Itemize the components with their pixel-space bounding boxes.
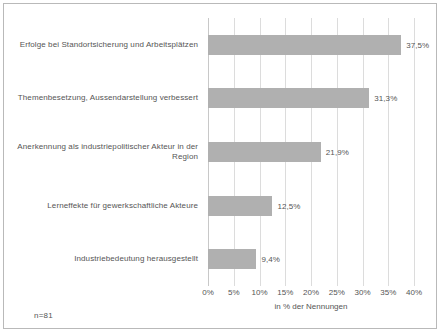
chart-frame: 37,5%31,3%21,9%12,5%9,4% 0%5%10%15%20%25…	[3, 3, 437, 329]
x-tick-label: 10%	[251, 288, 267, 297]
gridline-40	[414, 18, 415, 286]
bar-row: 37,5%	[208, 35, 414, 55]
bar-row: 12,5%	[208, 196, 414, 216]
category-label: Industriebedeutung herausgestellt	[8, 254, 198, 264]
x-axis-title: in % der Nennungen	[208, 302, 414, 311]
x-tick-label: 15%	[277, 288, 293, 297]
x-axis: 0%5%10%15%20%25%30%35%40%	[208, 286, 414, 300]
bar-row: 21,9%	[208, 142, 414, 162]
bar-value-label: 37,5%	[406, 40, 429, 49]
bar-row: 31,3%	[208, 88, 414, 108]
x-tick-label: 35%	[380, 288, 396, 297]
x-tick-label: 25%	[329, 288, 345, 297]
x-tick-label: 20%	[303, 288, 319, 297]
bar-value-label: 12,5%	[277, 201, 300, 210]
bar-value-label: 31,3%	[374, 94, 397, 103]
x-tick-label: 40%	[406, 288, 422, 297]
bar-value-label: 21,9%	[326, 148, 349, 157]
bar-value-label: 9,4%	[261, 255, 280, 264]
category-label: Lerneffekte für gewerkschaftliche Akteur…	[8, 201, 198, 211]
bar	[208, 88, 369, 108]
x-tick-label: 5%	[228, 288, 240, 297]
category-label: Themenbesetzung, Aussendarstellung verbe…	[8, 93, 198, 103]
bar-row: 9,4%	[208, 249, 414, 269]
x-tick-label: 30%	[354, 288, 370, 297]
category-label: Anerkennung als industriepolitischer Akt…	[8, 142, 198, 162]
sample-size-footnote: n=81	[34, 311, 53, 320]
x-tick-label: 0%	[202, 288, 214, 297]
bar	[208, 196, 272, 216]
plot-area: 37,5%31,3%21,9%12,5%9,4%	[208, 18, 414, 286]
bar	[208, 35, 401, 55]
bar	[208, 249, 256, 269]
category-label: Erfolge bei Standortsicherung und Arbeit…	[8, 40, 198, 50]
bar	[208, 142, 321, 162]
